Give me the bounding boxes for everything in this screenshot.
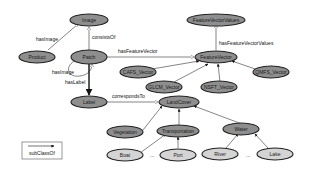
ellipsis-water: ...	[246, 152, 250, 158]
edge-water-subclass	[194, 106, 242, 124]
node-glcm-vector: GLCM_Vector	[146, 81, 182, 93]
node-boat: Boat	[107, 149, 143, 161]
node-nsft-vector: NSFT_Vector	[201, 81, 237, 93]
svg-text:Boat: Boat	[120, 152, 131, 158]
node-port: Port	[160, 149, 196, 161]
edge-label-corresponds-to: correspondsTo	[112, 93, 145, 99]
svg-text:NSFT_Vector: NSFT_Vector	[204, 84, 234, 90]
svg-text:Patch: Patch	[83, 54, 96, 60]
edge-qmfs-subclass	[232, 61, 258, 70]
edge-nsft-subclass	[218, 64, 220, 82]
edge-river-subclass	[226, 134, 238, 148]
svg-text:Water: Water	[234, 126, 247, 132]
edge-boat-subclass	[140, 134, 166, 153]
svg-text:Vegetation: Vegetation	[113, 129, 137, 135]
node-vegetation: Vegetation	[107, 126, 143, 138]
svg-text:FeatureVectorValues: FeatureVectorValues	[193, 17, 240, 23]
svg-text:Product: Product	[28, 54, 46, 60]
node-land-cover: LandCover	[159, 96, 199, 108]
edge-label-has-image-self: hasImage	[52, 69, 74, 75]
node-image: Image	[70, 14, 108, 26]
node-feature-vector-values: FeatureVectorValues	[187, 14, 245, 26]
svg-text:CAFS_Vector: CAFS_Vector	[123, 69, 154, 75]
legend-label: subClassOf	[29, 150, 55, 156]
edge-label-has-label: hasLabel	[65, 79, 85, 85]
edge-label-consists-of: consistsOf	[92, 34, 116, 40]
svg-text:GLCM_Vector: GLCM_Vector	[148, 84, 180, 90]
node-cafs-vector: CAFS_Vector	[120, 66, 156, 78]
node-lake: Lake	[257, 148, 293, 160]
node-product: Product	[19, 51, 55, 63]
edge-vegetation-subclass	[143, 106, 162, 130]
svg-text:Image: Image	[82, 17, 96, 23]
edge-label-has-feature-vector: hasFeatureVector	[118, 48, 158, 54]
node-river: River	[202, 148, 238, 160]
svg-text:FeatureVector: FeatureVector	[200, 54, 232, 60]
ellipsis-transportation: ...	[150, 152, 154, 158]
edge-cafs-subclass	[152, 61, 199, 69]
edge-lake-subclass	[255, 134, 268, 148]
edge-glcm-subclass	[174, 64, 208, 82]
svg-text:Lake: Lake	[270, 151, 281, 157]
svg-text:Label: Label	[83, 99, 95, 105]
edge-label-has-image: hasImage	[36, 36, 58, 42]
svg-text:Transportation: Transportation	[162, 128, 194, 134]
edge-label-has-feature-vector-values: hasFeatureVectorValues	[219, 40, 274, 46]
node-label: Label	[71, 96, 107, 108]
node-feature-vector: FeatureVector	[195, 51, 237, 63]
node-patch: Patch	[71, 50, 107, 64]
svg-text:LandCover: LandCover	[167, 99, 192, 105]
svg-text:QMFS_Vector: QMFS_Vector	[255, 69, 287, 75]
node-qmfs-vector: QMFS_Vector	[253, 66, 289, 78]
svg-text:Port: Port	[173, 152, 183, 158]
svg-text:River: River	[214, 151, 226, 157]
ontology-diagram: hasImage consistsOf hasFeatureVector has…	[0, 0, 313, 172]
legend: subClassOf	[22, 142, 62, 159]
node-water: Water	[223, 123, 259, 135]
node-transportation: Transportation	[157, 125, 199, 137]
